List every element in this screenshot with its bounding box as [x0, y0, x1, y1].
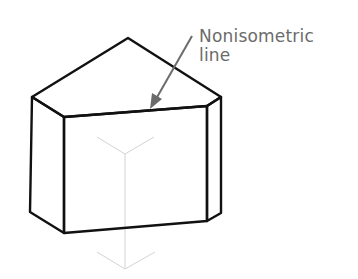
annotation-line-2: line: [199, 46, 314, 65]
upper-axis-y: [97, 137, 154, 154]
arrow-head: [150, 93, 162, 109]
arrow-shaft: [156, 36, 192, 99]
right-face: [207, 97, 221, 221]
left-face: [30, 97, 64, 233]
annotation-label: Nonisometric line: [199, 27, 314, 65]
leader-arrow: [150, 36, 192, 109]
isometric-axes: [97, 137, 155, 269]
annotation-line-1: Nonisometric: [199, 27, 314, 46]
front-face: [64, 106, 207, 233]
top-face: [32, 38, 221, 117]
lower-axis-v: [97, 252, 155, 269]
